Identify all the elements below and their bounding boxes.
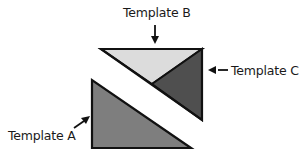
template-c-label: Template C: [231, 63, 299, 78]
template-a-label: Template A: [8, 128, 76, 143]
template-b-label: Template B: [123, 5, 191, 20]
arrow-down-icon: [151, 25, 159, 44]
arrow-up-right-icon: [74, 116, 90, 128]
arrow-left-icon: [208, 66, 228, 74]
